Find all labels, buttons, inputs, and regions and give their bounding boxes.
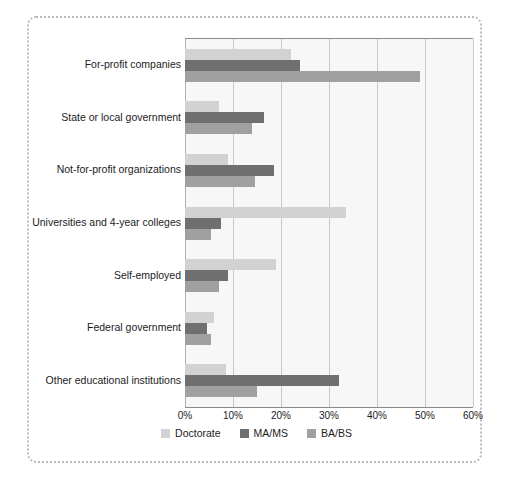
legend-label: BA/BS bbox=[321, 427, 352, 439]
legend-swatch-icon bbox=[240, 429, 249, 438]
bar bbox=[185, 334, 211, 345]
bar bbox=[185, 165, 274, 176]
plot-area bbox=[185, 38, 473, 408]
x-tick-label: 50% bbox=[403, 410, 447, 421]
category-label: Universities and 4-year colleges bbox=[0, 216, 181, 228]
chart-legend: DoctorateMA/MSBA/BS bbox=[29, 427, 484, 439]
bar bbox=[185, 176, 255, 187]
bar-group bbox=[185, 101, 473, 134]
category-label: Other educational institutions bbox=[0, 374, 181, 386]
figure-frame: For-profit companiesState or local gover… bbox=[27, 16, 482, 463]
grouped-bar-chart: For-profit companiesState or local gover… bbox=[29, 18, 484, 465]
category-label: Federal government bbox=[0, 321, 181, 333]
bar-group bbox=[185, 364, 473, 397]
bar bbox=[185, 386, 257, 397]
bar bbox=[185, 49, 291, 60]
bar bbox=[185, 270, 228, 281]
bar bbox=[185, 60, 300, 71]
legend-swatch-icon bbox=[307, 429, 316, 438]
bar bbox=[185, 101, 219, 112]
category-label: Not-for-profit organizations bbox=[0, 163, 181, 175]
bar bbox=[185, 323, 207, 334]
bar bbox=[185, 281, 219, 292]
x-tick-label: 10% bbox=[211, 410, 255, 421]
legend-label: MA/MS bbox=[254, 427, 288, 439]
bar bbox=[185, 259, 276, 270]
legend-label: Doctorate bbox=[175, 427, 221, 439]
bar bbox=[185, 312, 214, 323]
bar-group bbox=[185, 154, 473, 187]
bar-group bbox=[185, 207, 473, 240]
legend-swatch-icon bbox=[161, 429, 170, 438]
bar bbox=[185, 71, 420, 82]
category-label: Self-employed bbox=[0, 269, 181, 281]
x-tick-label: 20% bbox=[259, 410, 303, 421]
bar bbox=[185, 112, 264, 123]
legend-item[interactable]: BA/BS bbox=[307, 427, 352, 439]
bar bbox=[185, 218, 221, 229]
bar bbox=[185, 375, 339, 386]
x-tick-label: 40% bbox=[355, 410, 399, 421]
legend-item[interactable]: Doctorate bbox=[161, 427, 221, 439]
category-label: For-profit companies bbox=[0, 58, 181, 70]
x-tick-label: 30% bbox=[307, 410, 351, 421]
x-tick-label: 60% bbox=[451, 410, 495, 421]
bar-group bbox=[185, 312, 473, 345]
gridline-60% bbox=[473, 39, 474, 407]
bar bbox=[185, 229, 211, 240]
bar-group bbox=[185, 49, 473, 82]
bar bbox=[185, 123, 252, 134]
bar bbox=[185, 154, 228, 165]
bar-group bbox=[185, 259, 473, 292]
bar bbox=[185, 207, 346, 218]
legend-item[interactable]: MA/MS bbox=[240, 427, 288, 439]
x-tick-label: 0% bbox=[163, 410, 207, 421]
bar bbox=[185, 364, 226, 375]
category-label: State or local government bbox=[0, 111, 181, 123]
